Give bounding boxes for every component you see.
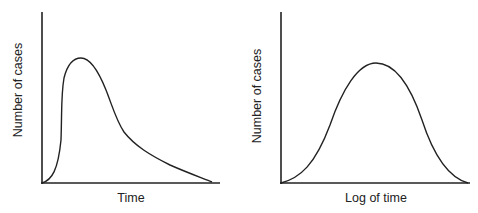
- chart-left: Time Number of cases: [11, 12, 220, 205]
- left-y-label: Number of cases: [11, 43, 25, 137]
- chart-right: Log of time Number of cases: [250, 12, 470, 205]
- right-y-label: Number of cases: [250, 49, 264, 143]
- right-curve: [281, 63, 468, 183]
- right-x-label: Log of time: [345, 191, 407, 205]
- left-x-label: Time: [117, 191, 144, 205]
- left-curve: [42, 58, 212, 183]
- charts-canvas: Time Number of cases Log of time Number …: [0, 0, 478, 213]
